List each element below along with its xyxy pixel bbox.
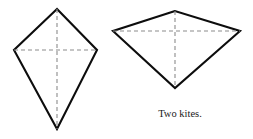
kite-left-group (14, 9, 97, 129)
kite-right-outline (113, 11, 240, 88)
two-kites-figure: Two kites. (0, 0, 253, 139)
kite-right-group (113, 11, 240, 88)
kite-left-outline (14, 9, 97, 129)
figure-caption: Two kites. (128, 107, 232, 120)
